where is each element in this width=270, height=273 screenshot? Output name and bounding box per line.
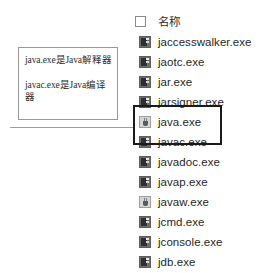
column-header-name: 名称 <box>158 13 181 29</box>
file-list-item[interactable]: jarsigner.exe <box>133 92 270 112</box>
file-name-label: javaw.exe <box>158 196 209 208</box>
file-name-label: jar.exe <box>158 76 192 88</box>
console-exe-icon <box>139 216 151 228</box>
file-list-item[interactable]: jconsole.exe <box>133 232 270 252</box>
console-exe-icon <box>139 256 151 268</box>
file-list-item[interactable]: javaw.exe <box>133 192 270 212</box>
file-name-label: jaccesswalker.exe <box>158 36 252 48</box>
file-list-item[interactable]: jdb.exe <box>133 252 270 272</box>
file-name-label: jaotc.exe <box>158 56 204 68</box>
console-exe-icon <box>139 136 151 148</box>
java-app-icon <box>139 196 151 208</box>
file-list-item[interactable]: java.exe <box>133 112 270 132</box>
console-exe-icon <box>139 36 151 48</box>
file-name-label: javac.exe <box>158 136 207 148</box>
file-name-label: jconsole.exe <box>158 236 223 248</box>
file-list-item[interactable]: jaccesswalker.exe <box>133 32 270 52</box>
file-list: 名称 jaccesswalker.exejaotc.exejar.exejars… <box>133 10 270 272</box>
select-all-checkbox[interactable] <box>135 16 146 27</box>
java-app-icon <box>139 116 151 128</box>
screenshot-canvas: java.exe是Java解释器 javac.exe是Java编译器 名称 ja… <box>0 0 270 273</box>
console-exe-icon <box>139 56 151 68</box>
file-name-label: java.exe <box>158 116 201 128</box>
console-exe-icon <box>139 176 151 188</box>
console-exe-icon <box>139 96 151 108</box>
file-list-item[interactable]: jar.exe <box>133 72 270 92</box>
file-rows-container: jaccesswalker.exejaotc.exejar.exejarsign… <box>133 32 270 272</box>
file-name-label: javap.exe <box>158 176 208 188</box>
file-name-label: jarsigner.exe <box>158 96 224 108</box>
file-name-label: javadoc.exe <box>158 156 220 168</box>
annotation-line-1: java.exe是Java解释器 <box>25 54 112 67</box>
file-list-item[interactable]: javadoc.exe <box>133 152 270 172</box>
annotation-leader-line <box>10 127 134 128</box>
file-name-label: jdb.exe <box>158 256 195 268</box>
file-name-label: jcmd.exe <box>158 216 204 228</box>
annotation-line-2: javac.exe是Java编译器 <box>25 79 112 104</box>
console-exe-icon <box>139 236 151 248</box>
annotation-callout: java.exe是Java解释器 javac.exe是Java编译器 <box>18 47 118 120</box>
file-list-header-row: 名称 <box>133 10 270 32</box>
file-list-item[interactable]: javac.exe <box>133 132 270 152</box>
console-exe-icon <box>139 76 151 88</box>
console-exe-icon <box>139 156 151 168</box>
file-list-item[interactable]: javap.exe <box>133 172 270 192</box>
file-list-item[interactable]: jaotc.exe <box>133 52 270 72</box>
file-list-item[interactable]: jcmd.exe <box>133 212 270 232</box>
